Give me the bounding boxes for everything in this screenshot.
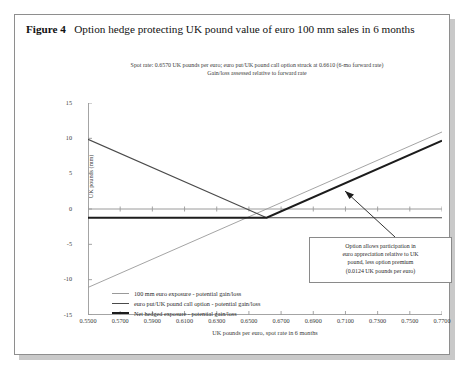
- subtitle-line-2: Gain/loss assessed relative to forward r…: [77, 69, 437, 77]
- legend-label: Net hedged exposure - potential gain/los…: [134, 310, 237, 317]
- y-tick-label: -5: [46, 240, 72, 247]
- chart-subtitle: Spot rate: 0.6570 UK pounds per euro; eu…: [77, 61, 437, 77]
- legend-item[interactable]: euro put/UK pound call option - potentia…: [112, 298, 342, 308]
- x-axis-label: UK pounds per euro, spot rate in 6 month…: [88, 329, 442, 336]
- y-tick-label: 0: [46, 205, 72, 212]
- x-tick-label: 0.7700: [422, 317, 462, 324]
- legend-item[interactable]: 100 mm euro exposure - potential gain/lo…: [112, 288, 342, 298]
- x-axis-tick-labels: 0.55000.57000.59000.61000.63000.65000.67…: [88, 317, 442, 329]
- annotation-line-2: euro appreciation relative to UK: [315, 250, 446, 258]
- annotation-line-3: pound, less option premium: [315, 258, 446, 266]
- chart-legend: 100 mm euro exposure - potential gain/lo…: [112, 288, 342, 319]
- y-tick-label: 15: [46, 99, 72, 106]
- legend-swatch: [112, 303, 129, 304]
- y-axis-tick-labels: 151050-5-10-15: [46, 103, 72, 315]
- legend-item[interactable]: Net hedged exposure - potential gain/los…: [112, 308, 342, 318]
- legend-swatch: [112, 312, 129, 314]
- y-tick-label: 10: [46, 134, 72, 141]
- legend-label: euro put/UK pound call option - potentia…: [134, 300, 260, 307]
- annotation-line-1: Option allows participation in: [315, 242, 446, 250]
- legend-label: 100 mm euro exposure - potential gain/lo…: [134, 290, 241, 297]
- annotation-arrow-icon: [335, 185, 399, 241]
- figure-number: Figure 4: [26, 23, 66, 35]
- subtitle-line-1: Spot rate: 0.6570 UK pounds per euro; eu…: [77, 61, 437, 69]
- figure-title: Figure 4 Option hedge protecting UK poun…: [26, 21, 430, 37]
- y-tick-label: 5: [46, 169, 72, 176]
- annotation-callout: Option allows participation in euro appr…: [309, 237, 452, 283]
- legend-swatch: [112, 293, 129, 294]
- annotation-line-4: (0.0124 UK pounds per euro): [315, 267, 446, 275]
- y-tick-label: -10: [46, 275, 72, 282]
- figure-screenshot: Figure 4 Option hedge protecting UK poun…: [0, 0, 468, 373]
- figure-card: Figure 4 Option hedge protecting UK poun…: [14, 14, 450, 355]
- figure-title-text: Option hedge protecting UK pound value o…: [74, 23, 414, 35]
